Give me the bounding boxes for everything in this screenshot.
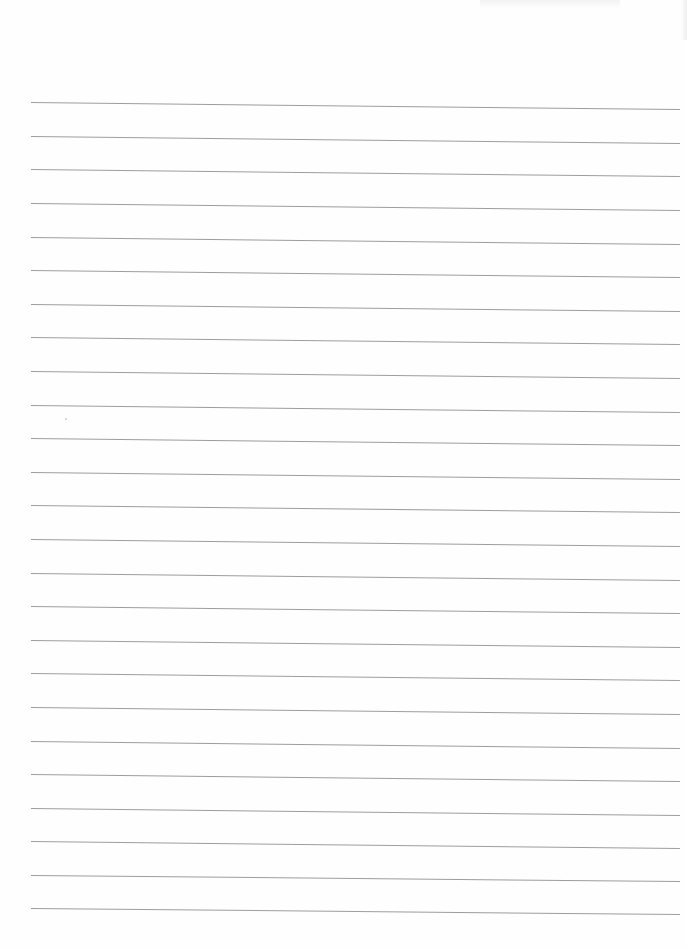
ruled-line <box>31 203 680 211</box>
ruled-line <box>31 841 680 849</box>
ruled-line <box>31 539 680 547</box>
ruled-line <box>31 102 680 110</box>
ruled-line <box>31 808 680 816</box>
ruled-line <box>31 337 680 345</box>
ruled-line <box>31 606 680 614</box>
ruled-line <box>31 707 680 715</box>
ruled-line <box>31 640 680 648</box>
ruled-line <box>31 136 680 144</box>
ruled-line <box>31 673 680 681</box>
lined-paper-page <box>0 0 687 949</box>
ruled-line <box>31 371 680 379</box>
ruled-line <box>31 304 680 312</box>
ruled-line <box>31 405 680 413</box>
dust-speck <box>65 418 67 420</box>
ruled-line <box>31 908 680 915</box>
ruled-line <box>31 237 680 245</box>
ruled-line <box>31 169 680 177</box>
ruled-line <box>31 270 680 278</box>
ruled-line <box>31 875 680 882</box>
ruled-line <box>31 774 680 782</box>
ruled-line <box>31 573 680 581</box>
ruled-lines-area <box>0 0 687 949</box>
ruled-line <box>31 505 680 513</box>
ruled-line <box>31 472 680 480</box>
ruled-line <box>31 741 680 749</box>
ruled-line <box>31 438 680 446</box>
